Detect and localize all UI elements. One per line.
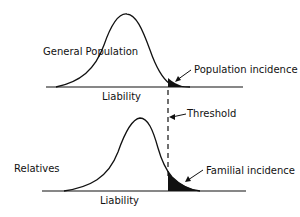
relatives-curve	[64, 118, 200, 191]
arrowhead-icon	[175, 76, 181, 82]
arrowhead-icon	[169, 114, 175, 120]
bottom-liability-label: Liability	[100, 195, 139, 206]
familial-incidence-label: Familial incidence	[206, 165, 295, 176]
top-liability-label: Liability	[102, 91, 141, 102]
relatives-label: Relatives	[14, 163, 60, 174]
familial-incidence-arrow	[188, 170, 203, 180]
bottom-panel: Relatives Liability Familial incidence	[14, 118, 295, 206]
liability-threshold-diagram: General Population Liability Population …	[0, 0, 300, 217]
population-incidence-label: Population incidence	[194, 64, 298, 75]
threshold-label: Threshold	[186, 108, 236, 119]
general-population-label: General Population	[43, 46, 138, 57]
top-panel: General Population Liability Population …	[43, 14, 298, 102]
